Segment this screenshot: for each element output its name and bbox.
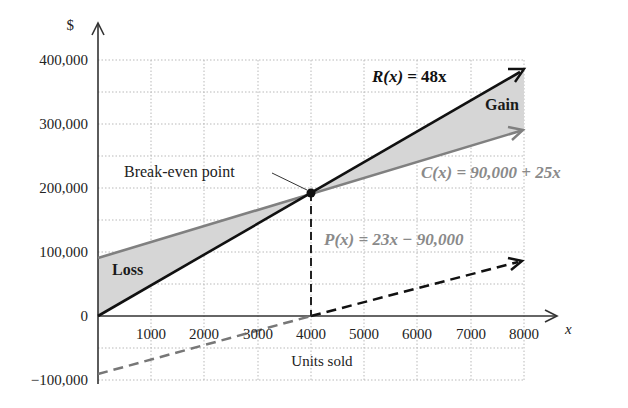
x-tick: 4000 — [296, 326, 326, 342]
x-tick: 8000 — [509, 326, 539, 342]
cost-equation: C(x) = 90,000 + 25x — [421, 163, 561, 182]
y-tick: 100,000 — [39, 244, 88, 260]
break-even-point — [307, 189, 316, 198]
x-axis-title: Units sold — [291, 353, 353, 369]
y-tick: −100,000 — [31, 372, 88, 388]
x-axis-symbol: x — [564, 321, 572, 337]
gain-label: Gain — [485, 96, 519, 113]
revenue-equation: R(x)= 48x — [371, 67, 447, 86]
x-tick: 2000 — [189, 326, 219, 342]
break-even-chart: $ 400,000 300,000 200,000 100,000 0 −100… — [0, 0, 628, 408]
y-label: $ — [67, 17, 75, 33]
x-tick: 3000 — [243, 326, 273, 342]
x-tick: 5000 — [349, 326, 379, 342]
break-even-label: Break-even point — [124, 163, 235, 181]
profit-equation: P(x) = 23x − 90,000 — [323, 230, 464, 249]
y-tick: 200,000 — [39, 180, 88, 196]
x-tick: 6000 — [402, 326, 432, 342]
break-even-leader — [272, 173, 307, 190]
x-tick: 7000 — [456, 326, 486, 342]
loss-label: Loss — [112, 261, 143, 278]
y-tick: 0 — [81, 308, 89, 324]
profit-line-positive — [311, 262, 518, 316]
y-tick: 300,000 — [39, 116, 88, 132]
x-tick: 1000 — [136, 326, 166, 342]
y-tick: 400,000 — [39, 52, 88, 68]
